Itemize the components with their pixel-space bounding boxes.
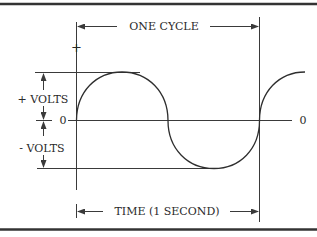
sine-wave-diagram: + + VOLTS - VOLTS 0 0 ONE CYCLE TIME (1 … bbox=[0, 0, 317, 237]
zero-label-left: 0 bbox=[60, 114, 67, 127]
zero-label-right: 0 bbox=[300, 114, 307, 127]
plus-sign: + bbox=[71, 40, 82, 55]
time-label: TIME (1 SECOND) bbox=[115, 205, 220, 218]
plus-volts-label: + VOLTS bbox=[18, 93, 69, 106]
minus-volts-label: - VOLTS bbox=[19, 142, 64, 155]
one-cycle-label: ONE CYCLE bbox=[129, 20, 198, 33]
